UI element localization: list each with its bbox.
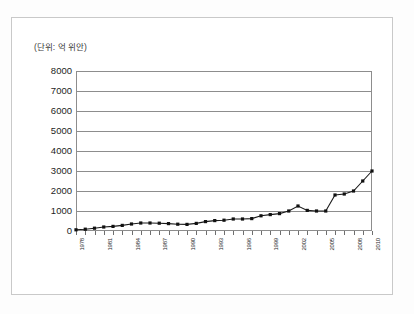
data-point-marker [361, 179, 364, 182]
x-axis-tick-label: 2005 [329, 238, 335, 251]
x-axis-tick [85, 231, 86, 235]
x-axis-tick [169, 231, 170, 235]
x-axis-tick [372, 231, 373, 235]
x-axis-tick [150, 231, 151, 235]
x-axis-tick [104, 231, 105, 235]
x-axis-tick [298, 231, 299, 235]
x-axis-tick [317, 231, 318, 235]
x-axis-tick [132, 231, 133, 235]
line-chart: 010002000300040005000600070008000 197819… [76, 71, 372, 231]
data-point-marker [139, 221, 142, 224]
data-point-marker [74, 228, 77, 231]
x-axis-tick [196, 231, 197, 235]
x-axis-tick-label: 1984 [135, 238, 141, 251]
x-axis-tick [233, 231, 234, 235]
x-axis-tick-label: 1999 [273, 238, 279, 251]
y-axis-tick-label: 1000 [51, 206, 72, 216]
x-axis-tick-label: 1990 [190, 238, 196, 251]
data-point-marker [296, 204, 299, 207]
figure-frame: (단위: 억 위안) 01000200030004000500060007000… [11, 17, 393, 295]
data-point-marker [333, 193, 336, 196]
data-point-marker [93, 227, 96, 230]
data-point-marker [111, 225, 114, 228]
x-axis-tick [344, 231, 345, 235]
data-point-marker [324, 209, 327, 212]
x-axis-tick [178, 231, 179, 235]
data-point-marker [204, 220, 207, 223]
y-axis-tick-label: 5000 [51, 126, 72, 136]
x-axis-tick [122, 231, 123, 235]
scanned-page: (단위: 억 위안) 01000200030004000500060007000… [0, 0, 414, 314]
x-axis-tick [159, 231, 160, 235]
x-axis-tick-label: 2010 [375, 238, 381, 251]
data-point-marker [269, 213, 272, 216]
data-point-marker [250, 217, 253, 220]
data-point-marker [232, 217, 235, 220]
x-axis-tick [261, 231, 262, 235]
y-axis-tick-label: 3000 [51, 166, 72, 176]
y-axis-tick-label: 7000 [51, 86, 72, 96]
x-axis-tick [280, 231, 281, 235]
data-point-marker [130, 222, 133, 225]
data-point-marker [306, 209, 309, 212]
x-axis-tick [307, 231, 308, 235]
x-axis-tick [206, 231, 207, 235]
x-axis-tick [363, 231, 364, 235]
x-axis-tick-label: 1978 [79, 238, 85, 251]
y-axis-tick-label: 6000 [51, 106, 72, 116]
x-axis-tick-label: 2002 [301, 238, 307, 251]
data-point-marker [259, 214, 262, 217]
data-point-marker [185, 223, 188, 226]
data-point-marker [343, 192, 346, 195]
y-axis-tick-label: 8000 [51, 66, 72, 76]
x-axis-tick [95, 231, 96, 235]
x-axis-tick [243, 231, 244, 235]
x-axis-tick [354, 231, 355, 235]
unit-note-label: (단위: 억 위안) [34, 40, 87, 52]
data-point-marker [315, 209, 318, 212]
data-point-marker [241, 217, 244, 220]
data-point-marker [352, 189, 355, 192]
data-point-marker [158, 222, 161, 225]
data-point-marker [278, 212, 281, 215]
x-axis-tick-label: 1993 [218, 238, 224, 251]
x-axis-tick [252, 231, 253, 235]
x-axis-tick [224, 231, 225, 235]
x-axis-tick [326, 231, 327, 235]
data-point-marker [213, 219, 216, 222]
data-point-marker [370, 169, 373, 172]
x-axis-tick [270, 231, 271, 235]
x-axis-tick [289, 231, 290, 235]
data-point-marker [148, 221, 151, 224]
data-point-marker [195, 222, 198, 225]
y-axis-tick-label: 2000 [51, 186, 72, 196]
y-axis-tick-label: 0 [67, 226, 72, 236]
y-axis-tick-label: 4000 [51, 146, 72, 156]
x-axis-tick [113, 231, 114, 235]
series-path-layer [76, 71, 372, 231]
data-point-marker [176, 223, 179, 226]
x-axis-tick [76, 231, 77, 235]
x-axis-tick-label: 1981 [107, 238, 113, 251]
data-point-marker [167, 222, 170, 225]
data-point-marker [84, 228, 87, 231]
x-axis-tick-label: 2008 [357, 238, 363, 251]
data-point-marker [222, 219, 225, 222]
x-axis-tick-label: 1996 [246, 238, 252, 251]
data-point-marker [102, 225, 105, 228]
x-axis-tick [187, 231, 188, 235]
x-axis-tick [335, 231, 336, 235]
x-axis-tick [215, 231, 216, 235]
x-axis-tick-label: 1987 [162, 238, 168, 251]
data-point-marker [121, 224, 124, 227]
data-point-marker [287, 209, 290, 212]
x-axis-tick [141, 231, 142, 235]
